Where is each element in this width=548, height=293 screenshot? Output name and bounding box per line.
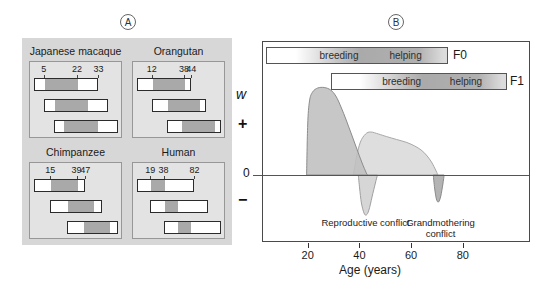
x-axis-label: Age (years)	[262, 263, 478, 277]
age-number: 47	[80, 165, 90, 175]
generation-bar	[137, 179, 194, 192]
species-title: Chimpanzee	[29, 144, 122, 160]
generation-bar	[67, 221, 118, 234]
y-axis-label-w: w	[236, 86, 246, 102]
reproductive-period-segment	[153, 79, 185, 90]
reproductive-period-segment	[55, 100, 88, 111]
f0-fitness-hump-curve	[307, 87, 368, 175]
x-tick-label: 40	[353, 249, 365, 261]
age-number: 33	[93, 64, 103, 74]
f1-fitness-hump-curve	[353, 132, 438, 175]
x-tick	[359, 243, 360, 248]
age-tick	[85, 176, 86, 179]
reproductive-period-segment	[182, 121, 214, 132]
y-axis-zero: 0	[243, 166, 250, 180]
x-tick	[463, 243, 464, 248]
f0-breeding-label: breeding	[320, 48, 359, 63]
f1-breeding-label: breeding	[382, 74, 421, 89]
age-number: 5	[41, 64, 46, 74]
f0-label: F0	[453, 48, 467, 62]
age-tick	[184, 75, 185, 78]
x-tick	[411, 243, 412, 248]
zero-tick	[253, 175, 262, 176]
generation-bar	[34, 78, 98, 91]
species-panel: Chimpanzee 153947	[29, 144, 122, 240]
f1-generation-bar: breeding helping	[331, 73, 507, 90]
generation-bar	[54, 120, 118, 133]
age-number: 19	[145, 165, 155, 175]
age-number: 12	[147, 64, 157, 74]
fitness-curves	[263, 42, 529, 241]
age-number: 38	[159, 165, 169, 175]
f0-generation-bar: breeding helping	[266, 47, 448, 64]
species-title: Orangutan	[132, 43, 225, 59]
species-box: 153947	[29, 162, 122, 239]
species-panel: Human 193882	[132, 144, 225, 240]
generation-bar	[44, 99, 108, 112]
species-panel: Orangutan 123844	[132, 43, 225, 139]
age-tick	[164, 176, 165, 179]
generation-bar	[167, 120, 221, 133]
f0-helping-label: helping	[389, 48, 421, 63]
reproductive-period-segment	[151, 180, 164, 191]
species-box: 123844	[132, 61, 225, 138]
age-tick	[152, 75, 153, 78]
reproductive-period-segment	[45, 79, 78, 90]
species-title: Japanese macaque	[29, 43, 122, 59]
age-tick	[50, 176, 51, 179]
generation-bar	[137, 78, 191, 91]
species-box: 52233	[29, 61, 122, 138]
panel-b-plot: breeding helping F0 breeding helping F1 …	[262, 41, 530, 242]
grandmothering-conflict-annotation: Grandmothering conflict	[395, 217, 487, 240]
age-tick	[150, 176, 151, 179]
f1-helping-label: helping	[450, 74, 482, 89]
x-tick-label: 20	[302, 249, 314, 261]
species-title: Human	[132, 144, 225, 160]
grandmothering-conflict-dip-curve	[433, 175, 444, 202]
age-tick	[77, 75, 78, 78]
reproductive-period-segment	[64, 121, 97, 132]
reproductive-conflict-dip-curve	[358, 175, 377, 215]
reproductive-period-segment	[165, 201, 178, 212]
x-tick-label: 60	[405, 249, 417, 261]
age-tick	[191, 75, 192, 78]
age-number: 82	[189, 165, 199, 175]
generation-bar	[152, 99, 206, 112]
reproductive-period-segment	[178, 222, 191, 233]
species-box: 193882	[132, 162, 225, 239]
y-axis-plus: +	[238, 115, 247, 133]
x-tick-label: 80	[457, 249, 469, 261]
y-axis-minus: −	[238, 191, 247, 209]
age-tick	[77, 176, 78, 179]
reproductive-period-segment	[68, 201, 94, 212]
generation-bar	[164, 221, 221, 234]
age-number: 22	[72, 64, 82, 74]
panel-b-label: B	[388, 14, 404, 30]
f1-label: F1	[510, 74, 524, 88]
generation-bar	[34, 179, 85, 192]
zero-line	[263, 175, 529, 176]
reproductive-period-segment	[168, 100, 200, 111]
age-tick	[98, 75, 99, 78]
reproductive-period-segment	[51, 180, 77, 191]
age-number: 15	[45, 165, 55, 175]
species-panel: Japanese macaque 52233	[29, 43, 122, 139]
x-tick	[308, 243, 309, 248]
panel-a: Japanese macaque 52233 Orangutan 123844 …	[22, 38, 232, 245]
age-tick	[194, 176, 195, 179]
panel-a-label: A	[120, 14, 136, 30]
reproductive-period-segment	[84, 222, 110, 233]
age-tick	[44, 75, 45, 78]
age-number: 44	[186, 64, 196, 74]
generation-bar	[150, 200, 207, 213]
generation-bar	[50, 200, 101, 213]
